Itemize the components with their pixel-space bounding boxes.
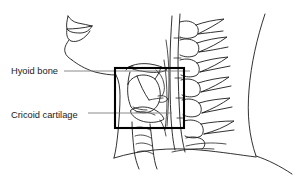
- label-cricoid-cartilage: Cricoid cartilage: [11, 110, 78, 120]
- vertebra-c3-lamina: [199, 47, 228, 52]
- trachea-anterior-wall: [132, 122, 139, 169]
- label-hyoid-bone: Hyoid bone: [11, 66, 58, 76]
- vertebra-c4-lamina: [200, 66, 230, 72]
- trachea-posterior-wall: [150, 124, 157, 169]
- tracheal-ring-2: [135, 135, 151, 138]
- clavicle-hint: [186, 143, 226, 146]
- chin-outline: [65, 40, 72, 60]
- cricoid-cartilage-outline: [131, 107, 164, 122]
- vertebra-c6-lamina: [202, 107, 232, 113]
- region-of-interest-box: [115, 68, 184, 128]
- larynx-group: [126, 60, 168, 169]
- cervical-spine-group: [170, 14, 234, 152]
- mouth-line: [67, 26, 92, 29]
- vertebra-c7-body: [184, 120, 203, 138]
- leader-lines-group: [64, 71, 190, 113]
- shoulder-group: [114, 14, 292, 174]
- anatomy-illustration: Hyoid bone Cricoid cartilage: [0, 0, 297, 192]
- vertebra-c3-body: [180, 39, 199, 57]
- vertebra-c7-lamina: [204, 130, 234, 134]
- vertebra-c2-body: [180, 21, 198, 38]
- shoulder-slope-right: [256, 156, 292, 174]
- anatomy-figure: Hyoid bone Cricoid cartilage: [0, 0, 297, 192]
- face-profile-group: [65, 16, 120, 158]
- thyroid-laminar-line: [137, 76, 149, 100]
- upper-lip-outline: [68, 16, 92, 26]
- submental-line: [72, 60, 116, 75]
- lower-lip-outline: [67, 29, 90, 42]
- posterior-neck-contour: [248, 14, 265, 156]
- vertebra-c5-lamina: [201, 86, 231, 92]
- tracheal-ring-3: [136, 143, 152, 146]
- anterior-vertebral-line: [170, 16, 175, 150]
- vocal-fold-line: [149, 98, 163, 100]
